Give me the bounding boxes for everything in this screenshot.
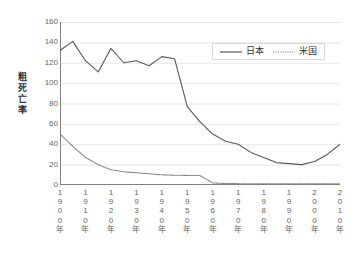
chart-legend: 日本 米国 [212,43,325,60]
x-axis-tick-label: 1 9 1 0 年 [76,188,94,234]
x-axis-tick-label: 1 9 0 0 年 [51,188,69,234]
y-axis-tick-label: 60 [34,120,58,128]
x-axis-tick-label: 1 9 2 0 年 [102,188,120,234]
y-axis-title: 粗死亡率 [14,72,30,116]
x-axis-tick-label: 1 9 3 0 年 [127,188,145,234]
x-axis-tick-label: 2 0 0 0 年 [306,188,324,234]
series-line-usa [60,134,340,184]
y-axis-tick-label: 140 [34,38,58,46]
x-axis-tick-labels: 1 9 0 0 年1 9 1 0 年1 9 2 0 年1 9 3 0 年1 9 … [60,188,340,250]
x-axis-tick-label: 1 9 9 0 年 [280,188,298,234]
legend-label-usa: 米国 [299,47,317,56]
x-axis-tick-label: 1 9 7 0 年 [229,188,247,234]
y-axis-tick-label: 100 [34,79,58,87]
y-axis-tick-label: 120 [34,59,58,67]
x-axis-tick-label: 1 9 6 0 年 [204,188,222,234]
y-axis-tick-label: 80 [34,100,58,108]
y-axis-tick-label: 160 [34,18,58,26]
y-axis-tick-label: 40 [34,140,58,148]
x-axis-tick-label: 1 9 4 0 年 [153,188,171,234]
legend-entry-japan: 日本 [220,47,264,56]
legend-entry-usa: 米国 [273,47,317,56]
x-axis-tick-label: 2 0 1 0 年 [331,188,349,234]
y-axis-tick-label: 20 [34,161,58,169]
data-series-layer [60,41,340,183]
crude-death-rate-chart: 粗死亡率 020406080100120140160 1 9 0 0 年1 9 … [0,0,355,255]
x-axis-tick-label: 1 9 5 0 年 [178,188,196,234]
legend-label-japan: 日本 [246,47,264,56]
legend-swatch-dotted-icon [273,48,295,56]
x-axis-tick-label: 1 9 8 0 年 [255,188,273,234]
legend-swatch-solid-icon [220,48,242,56]
